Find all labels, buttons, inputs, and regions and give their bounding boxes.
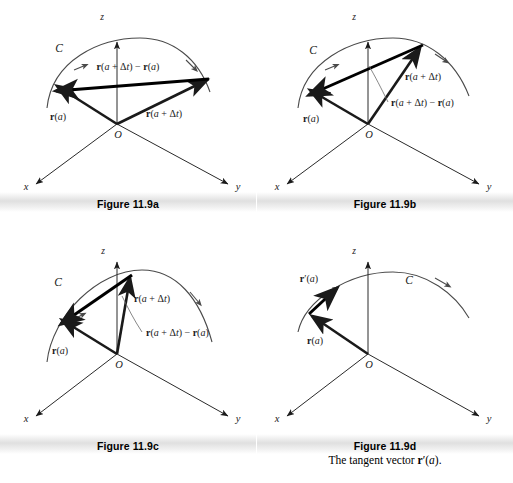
label-r-a: r(a) [52,345,68,357]
axis-label-x: x [274,181,280,192]
curve-label-c: C [405,274,413,286]
vector-secant-difference [61,275,132,324]
curve-label-c: C [55,42,63,54]
axis-y [117,354,228,416]
axis-label-y: y [235,413,241,424]
secant-label-leader-line [369,66,388,102]
label-r-a: r(a) [303,113,319,125]
axis-x [36,354,117,416]
axis-label-x: x [274,413,280,424]
panel-a-caption: Figure 11.9a [0,192,256,212]
panel-c-caption: Figure 11.9c [0,434,256,454]
curve-label-c: C [309,44,317,56]
figure-sheet: z x y O C r(a) r(a + Δt) r(a + Δt) − r(a… [0,0,513,483]
axis-label-y: y [486,413,492,424]
label-secant-difference: r(a + Δt) − r(a) [146,327,209,339]
figure-b-drawing: z x y O C r(a) r(a + Δt) r(a + Δt) − r(a… [257,0,513,196]
vector-r-a [62,320,117,354]
axis-label-z: z [99,12,104,22]
origin-label: O [114,129,122,140]
origin-label: O [115,359,123,370]
figure-panel-a: z x y O C r(a) r(a + Δt) r(a + Δt) − r(a… [0,0,256,241]
diagram-a: z x y O C r(a) r(a + Δt) r(a + Δt) − r(a… [0,0,256,196]
axis-x [287,124,368,184]
subcaption-tail: ). [435,454,442,466]
axis-label-x: x [23,413,29,424]
origin-label: O [365,129,373,140]
figure-panel-b: z x y O C r(a) r(a + Δt) r(a + Δt) − r(a… [257,0,513,241]
panel-d-caption: Figure 11.9d [257,434,513,454]
subcaption-text-lead: The tangent vector [328,454,417,466]
origin-label: O [365,359,373,370]
panel-b-caption: Figure 11.9b [257,192,513,212]
figure-panel-d: z x y O C r(a) r′(a) Figure 11.9d The ta… [257,242,513,483]
label-r-a-plus-dt: r(a + Δt) [146,108,182,120]
vector-r-a-plus-dt [117,278,130,354]
curve-direction-arrow-left [74,65,86,70]
axis-label-z: z [351,246,356,256]
axis-x [36,124,117,184]
label-secant-difference: r(a + Δt) − r(a) [391,97,454,109]
axis-label-x: x [23,181,29,192]
label-r-a-plus-dt: r(a + Δt) [134,293,170,305]
curve-direction-arrow-left [325,65,337,70]
axis-y [368,124,479,184]
axis-label-y: y [235,181,241,192]
diagram-c: z x y O C r(a) r(a + Δt) r(a + Δt) − r(a… [0,242,256,438]
axis-label-y: y [486,181,492,192]
figure-panel-c: z x y O C r(a) r(a + Δt) r(a + Δt) − r(a… [0,242,256,483]
axis-y [368,354,479,416]
vector-r-a-plus-dt [368,48,420,124]
axis-label-z: z [100,246,105,256]
figure-c-drawing: z x y O C r(a) r(a + Δt) r(a + Δt) − r(a… [0,242,256,438]
figure-a-drawing: z x y O C r(a) r(a + Δt) r(a + Δt) − r(a… [0,0,256,196]
axis-y [117,124,228,184]
curve-direction-arrow-right [186,60,196,70]
label-secant-difference: r(a + Δt) − r(a) [97,61,160,73]
curve-label-c: C [54,276,62,288]
label-r-a: r(a) [307,335,323,347]
panel-d-subcaption: The tangent vector r′(a). [257,454,513,466]
curve-c-path [47,38,210,108]
label-r-a-plus-dt: r(a + Δt) [405,71,441,83]
axis-x [287,354,368,416]
label-r-prime-a: r′(a) [300,273,318,285]
diagram-b: z x y O C r(a) r(a + Δt) r(a + Δt) − r(a… [257,0,513,196]
axis-label-z: z [351,12,356,22]
figure-d-drawing: z x y O C r(a) r′(a) [257,242,513,438]
label-r-a: r(a) [50,111,66,123]
vector-r-prime-a [309,288,337,314]
diagram-d: z x y O C r(a) r′(a) [257,242,513,438]
